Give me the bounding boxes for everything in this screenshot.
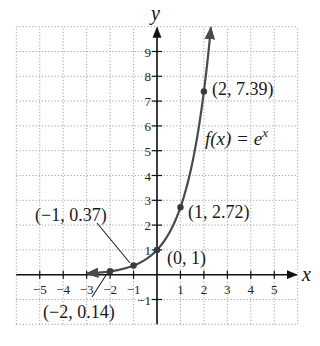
x-tick-label: −5 [33,282,47,297]
x-tick-label: 5 [271,282,278,297]
exponential-chart: −5−4−3−2−112345 −1123456789 x y (−1, 0.3… [0,0,320,346]
data-point [107,268,113,274]
x-tick-label: −4 [56,282,70,297]
point-label-1: (1, 2.72) [188,202,250,223]
leader-line-neg1 [97,223,130,263]
x-tick-labels: −5−4−3−2−112345 [33,282,278,297]
y-tick-label: 7 [145,94,152,109]
y-tick-label: 2 [145,218,152,233]
point-label-neg2: (−2, 0.14) [43,302,115,323]
x-tick-label: 3 [224,282,231,297]
y-tick-label: 4 [145,169,152,184]
data-point [154,247,160,253]
x-tick-label: 1 [177,282,184,297]
y-axis [152,28,162,325]
y-tick-label: 5 [145,144,152,159]
y-tick-label: 3 [145,193,152,208]
function-label: f(x) = ex [205,125,268,150]
function-label-lhs: f(x) = e [205,128,262,150]
point-label-0: (0, 1) [167,248,206,269]
point-label-2: (2, 7.39) [212,79,274,100]
x-axis-title: x [301,263,311,285]
function-label-exponent: x [261,125,268,140]
data-point [201,88,207,94]
y-axis-title: y [149,2,160,25]
y-tick-label: 9 [145,45,152,60]
x-tick-label: 4 [248,282,255,297]
point-label-neg1: (−1, 0.37) [35,205,107,226]
y-tick-labels: −1123456789 [137,45,151,308]
y-tick-label: 8 [145,69,152,84]
data-point [177,204,183,210]
x-tick-label: 2 [201,282,208,297]
data-point [130,262,136,268]
x-tick-label: −3 [80,282,94,297]
y-tick-label: −1 [137,293,151,308]
x-tick-label: −2 [103,282,117,297]
y-tick-label: 6 [145,119,152,134]
